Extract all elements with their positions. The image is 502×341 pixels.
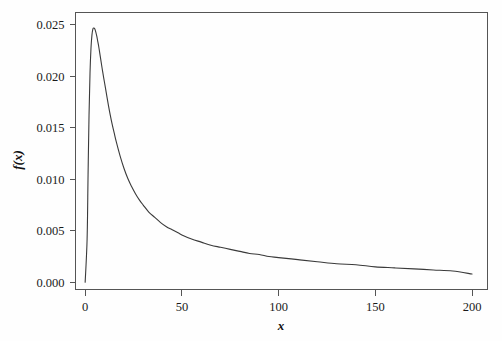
plot-frame (76, 13, 488, 290)
x-tick-label: 50 (176, 300, 189, 314)
x-tick-label: 0 (82, 300, 88, 314)
y-tick-label: 0.015 (36, 121, 64, 135)
x-tick-label: 200 (463, 300, 482, 314)
y-tick-label: 0.010 (36, 173, 64, 187)
y-tick-label: 0.020 (36, 70, 64, 84)
y-axis-title: f(x) (10, 150, 25, 170)
data-curve-fx (85, 28, 472, 282)
x-axis-ticks: 050100150200 (82, 290, 481, 314)
y-axis-ticks: 0.0000.0050.0100.0150.0200.025 (36, 18, 75, 289)
x-tick-label: 150 (366, 300, 385, 314)
x-tick-label: 100 (269, 300, 288, 314)
y-tick-label: 0.025 (36, 18, 64, 32)
y-tick-label: 0.000 (36, 276, 64, 290)
chart-figure: 050100150200 0.0000.0050.0100.0150.0200.… (0, 0, 502, 341)
y-tick-label: 0.005 (36, 224, 64, 238)
x-axis-title: x (277, 318, 285, 333)
density-plot: 050100150200 0.0000.0050.0100.0150.0200.… (0, 0, 502, 341)
